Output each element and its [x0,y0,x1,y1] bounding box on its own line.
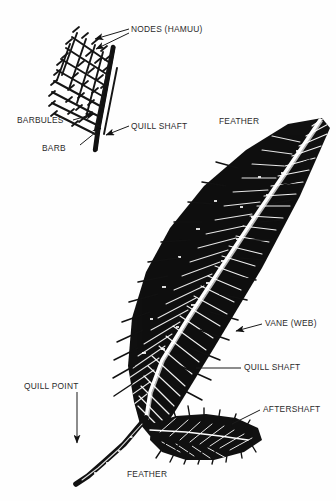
feather-illustration [0,0,336,501]
label-quill-shaft-detail: QUILL SHAFT [131,122,187,130]
label-feather-bottom: FEATHER [127,470,167,478]
label-barb: BARB [42,144,66,152]
label-quill-point: QUILL POINT [24,382,79,390]
feather-diagram-page: NODES (HAMUU) BARBULES BARB QUILL SHAFT … [0,0,336,501]
label-aftershaft: AFTERSHAFT [263,405,320,413]
label-nodes: NODES (HAMUU) [131,25,203,33]
label-barbules: BARBULES [17,116,64,124]
label-feather-top: FEATHER [219,117,259,125]
label-quill-shaft-main: QUILL SHAFT [244,363,300,371]
label-vane: VANE (WEB) [265,319,317,327]
